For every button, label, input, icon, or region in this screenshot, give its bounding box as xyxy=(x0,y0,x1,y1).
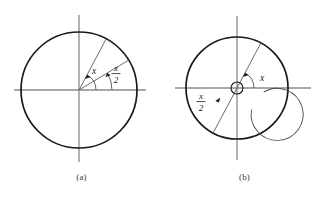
panel-a-label-x-over-2-denominator: 2 xyxy=(114,75,119,85)
panel-b-ray-x-half xyxy=(213,88,237,133)
panel-a-label-x-over-2-numerator: x xyxy=(113,63,118,73)
panel-b-label-x-over-2-denominator: 2 xyxy=(199,103,204,113)
panel-a: x x 2 (a) xyxy=(0,0,163,197)
panel-b-caption: (b) xyxy=(163,172,326,182)
panel-b-diagram: x x 2 xyxy=(163,0,326,172)
panel-a-label-x: x xyxy=(91,66,97,76)
panel-b-arrowhead-x-half xyxy=(215,98,220,103)
panel-a-caption: (a) xyxy=(0,172,163,182)
panel-b-ray-x xyxy=(237,43,261,88)
panel-b-label-x-over-2: x 2 xyxy=(197,91,206,113)
panel-a-diagram: x x 2 xyxy=(0,0,163,172)
panel-b-label-x: x xyxy=(259,73,265,83)
figure-root: x x 2 (a) xyxy=(0,0,326,197)
panel-b: x x 2 (b) xyxy=(163,0,326,197)
panel-b-sweep-arc xyxy=(243,80,312,150)
panel-b-label-x-over-2-numerator: x xyxy=(198,91,203,101)
